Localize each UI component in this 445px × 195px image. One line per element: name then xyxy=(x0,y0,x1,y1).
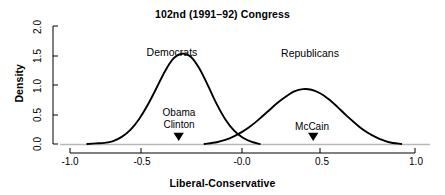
x-axis-line xyxy=(70,148,415,153)
annotation-marker-obama-clinton-icon xyxy=(173,133,183,141)
axes-group xyxy=(53,26,430,153)
density-chart-figure: 102nd (1991–92) Congress Density Liberal… xyxy=(0,0,445,195)
density-curve-republicans xyxy=(205,89,402,144)
plot-canvas xyxy=(0,0,445,195)
annotation-marker-mccain-icon xyxy=(308,133,318,141)
y-axis-line xyxy=(53,26,58,144)
density-curves-group xyxy=(87,54,401,144)
density-curve-democrats xyxy=(87,54,260,144)
